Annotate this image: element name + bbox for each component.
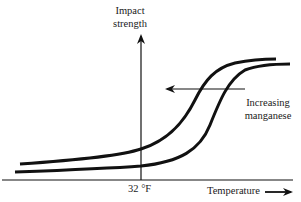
y-axis-label: Impact strength <box>104 4 156 30</box>
y-axis-label-line1: Impact <box>104 4 156 17</box>
x-reference-tick-label: 32 °F <box>128 182 151 195</box>
annotation-label: Increasing manganese <box>238 96 298 122</box>
y-axis-label-line2: strength <box>104 17 156 30</box>
annotation-line1: Increasing <box>238 96 298 109</box>
annotation-line2: manganese <box>238 109 298 122</box>
x-axis-label: Temperature <box>207 184 260 197</box>
